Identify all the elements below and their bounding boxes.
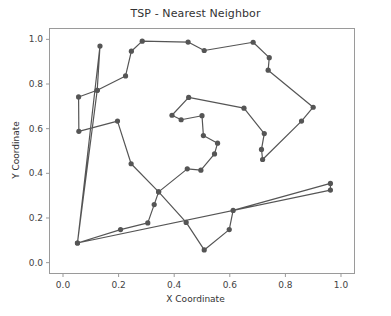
tour-point-marker: [215, 141, 220, 146]
plot-frame: [50, 29, 355, 274]
tour-point-marker: [186, 95, 191, 100]
tour-point-marker: [251, 40, 256, 45]
tour-point-marker: [299, 118, 304, 123]
tour-point-marker: [185, 166, 190, 171]
tour-point-marker: [97, 43, 102, 48]
tour-point-marker: [169, 113, 174, 118]
x-tick-label: 0.8: [278, 280, 292, 290]
tour-point-marker: [267, 55, 272, 60]
tour-point-marker: [202, 247, 207, 252]
tour-point-marker: [198, 168, 203, 173]
tour-point-marker: [115, 118, 120, 123]
x-axis-label: X Coordinate: [0, 294, 391, 304]
x-tick-label: 0.4: [167, 280, 181, 290]
tour-point-marker: [311, 105, 316, 110]
tour-point-marker: [179, 117, 184, 122]
tour-point-marker: [129, 161, 134, 166]
tour-point-marker: [184, 220, 189, 225]
x-axis-ticks: [63, 274, 341, 278]
tour-point-marker: [328, 187, 333, 192]
tour-point-marker: [202, 48, 207, 53]
x-tick-label: 0.6: [223, 280, 237, 290]
y-axis-ticks: [46, 39, 50, 262]
tour-point-marker: [118, 227, 123, 232]
x-tick-label: 0.0: [56, 280, 70, 290]
tour-point-marker: [266, 68, 271, 73]
tour-point-marker: [76, 94, 81, 99]
tour-point-marker: [227, 227, 232, 232]
y-tick-label: 0.0: [14, 258, 43, 268]
y-tick-label: 0.2: [14, 213, 43, 223]
tour-point-marker: [152, 202, 157, 207]
x-tick-label: 1.0: [334, 280, 348, 290]
tour-point-marker: [262, 131, 267, 136]
x-tick-label: 0.2: [111, 280, 125, 290]
tour-point-marker: [241, 106, 246, 111]
y-axis-label: Y Coordinate: [11, 90, 21, 210]
y-tick-label: 1.0: [14, 34, 43, 44]
tour-point-marker: [75, 240, 80, 245]
tour-point-marker: [199, 113, 204, 118]
tour-point-marker: [123, 73, 128, 78]
y-tick-label: 0.8: [14, 79, 43, 89]
tour-point-marker: [129, 49, 134, 54]
tour-point-marker: [260, 157, 265, 162]
tour-point-marker: [328, 181, 333, 186]
plot-canvas: [0, 0, 391, 316]
tour-point-marker: [145, 220, 150, 225]
tour-point-marker: [140, 39, 145, 44]
tour-point-marker: [156, 189, 161, 194]
tour-point-marker: [76, 129, 81, 134]
tour-point-marker: [95, 88, 100, 93]
tour-point-marker: [201, 133, 206, 138]
tour-point-marker: [259, 147, 264, 152]
tour-point-marker: [231, 208, 236, 213]
tsp-chart-figure: TSP - Nearest Neighbor 0.00.20.40.60.81.…: [0, 0, 391, 316]
tour-point-marker: [186, 39, 191, 44]
tour-point-marker: [212, 151, 217, 156]
